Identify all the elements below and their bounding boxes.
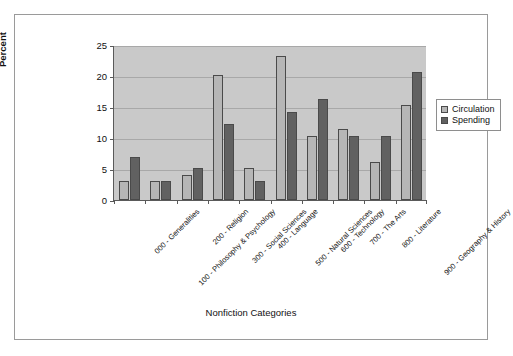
x-axis-tick-mark xyxy=(426,200,427,204)
x-axis-tick-mark xyxy=(145,200,146,204)
bar-circulation-2 xyxy=(182,175,192,200)
gridline xyxy=(114,108,426,109)
y-axis-tick-mark xyxy=(110,108,114,109)
legend-item-label: Circulation xyxy=(452,104,495,114)
legend-item-label: Spending xyxy=(452,115,490,125)
bar-circulation-8 xyxy=(370,162,380,200)
x-axis-tick-mark xyxy=(333,200,334,204)
y-axis-tick-label: 10 xyxy=(87,135,107,143)
x-axis-category-label: 500 - Natural Sciences xyxy=(314,207,375,268)
bar-spending-0 xyxy=(130,157,140,200)
y-axis-tick-label: 5 xyxy=(87,166,107,174)
y-axis-tick-mark xyxy=(110,170,114,171)
legend-swatch-icon xyxy=(441,117,448,124)
bar-circulation-1 xyxy=(150,181,160,200)
x-axis-title: Nonfiction Categories xyxy=(15,307,487,318)
bar-spending-4 xyxy=(255,181,265,200)
x-axis-category-label: 000 - Generalities xyxy=(152,207,201,256)
bar-spending-3 xyxy=(224,124,234,200)
bar-spending-1 xyxy=(161,181,171,200)
x-axis-tick-mark xyxy=(177,200,178,204)
y-axis-tick-label: 0 xyxy=(87,197,107,205)
y-axis-tick-mark xyxy=(110,77,114,78)
bar-spending-8 xyxy=(381,136,391,200)
bar-circulation-6 xyxy=(307,136,317,200)
bar-circulation-4 xyxy=(244,168,254,200)
chart-legend: CirculationSpending xyxy=(436,99,501,131)
x-axis-tick-mark xyxy=(239,200,240,204)
bar-circulation-5 xyxy=(276,56,286,200)
x-axis-tick-mark xyxy=(208,200,209,204)
bar-spending-2 xyxy=(193,168,203,200)
legend-swatch-icon xyxy=(441,106,448,113)
y-axis-title: Percent xyxy=(0,32,8,67)
gridline xyxy=(114,139,426,140)
y-axis-tick-mark xyxy=(110,139,114,140)
gridline xyxy=(114,77,426,78)
x-axis-category-label: 300 - Social Sciences xyxy=(250,207,308,265)
bar-circulation-3 xyxy=(213,75,223,200)
x-axis-tick-mark xyxy=(302,200,303,204)
bar-spending-9 xyxy=(412,72,422,200)
x-axis-category-label: 900 - Geography & History xyxy=(443,207,513,277)
y-axis-tick-mark xyxy=(110,46,114,47)
legend-item-spending[interactable]: Spending xyxy=(441,115,495,125)
bar-circulation-9 xyxy=(401,105,411,200)
chart-frame: Percent 0510152025 000 - Generalities100… xyxy=(14,14,488,340)
y-axis-tick-label: 20 xyxy=(87,73,107,81)
x-axis-tick-mark xyxy=(114,200,115,204)
x-axis-tick-mark xyxy=(396,200,397,204)
x-axis-tick-mark xyxy=(271,200,272,204)
x-axis-tick-mark xyxy=(364,200,365,204)
bar-spending-5 xyxy=(287,112,297,200)
bar-circulation-7 xyxy=(338,129,348,200)
plot-area xyxy=(113,46,426,201)
y-axis-tick-label: 15 xyxy=(87,104,107,112)
gridline xyxy=(114,46,426,47)
bar-spending-6 xyxy=(318,99,328,200)
bar-circulation-0 xyxy=(119,181,129,200)
legend-item-circulation[interactable]: Circulation xyxy=(441,104,495,114)
bar-spending-7 xyxy=(349,136,359,200)
y-axis-tick-label: 25 xyxy=(87,42,107,50)
